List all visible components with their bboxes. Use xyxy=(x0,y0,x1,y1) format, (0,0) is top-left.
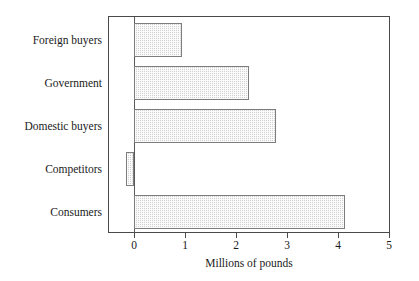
x-tick-mark xyxy=(134,233,135,238)
bar xyxy=(134,195,345,229)
x-tick-label: 0 xyxy=(119,239,149,251)
x-tick-mark xyxy=(185,233,186,238)
category-label: Competitors xyxy=(2,162,102,176)
x-tick-label: 5 xyxy=(374,239,404,251)
bars-layer xyxy=(109,17,389,232)
bar xyxy=(134,23,182,57)
x-tick-mark xyxy=(389,233,390,238)
category-label: Foreign buyers xyxy=(2,33,102,47)
x-tick-mark xyxy=(338,233,339,238)
category-label: Domestic buyers xyxy=(2,119,102,133)
x-axis-tick-labels: 012345 xyxy=(0,239,419,255)
bar xyxy=(126,152,134,186)
bar-row xyxy=(109,191,389,234)
bar-row xyxy=(109,105,389,148)
bar-row xyxy=(109,148,389,191)
bar xyxy=(134,109,276,143)
x-tick-mark xyxy=(236,233,237,238)
x-tick-mark xyxy=(287,233,288,238)
category-label: Consumers xyxy=(2,205,102,219)
bar-row xyxy=(109,19,389,62)
bar xyxy=(134,66,249,100)
category-label: Government xyxy=(2,76,102,90)
bar-row xyxy=(109,62,389,105)
x-tick-label: 3 xyxy=(272,239,302,251)
x-axis-title: Millions of pounds xyxy=(108,257,390,269)
x-tick-label: 4 xyxy=(323,239,353,251)
x-tick-label: 2 xyxy=(221,239,251,251)
x-tick-label: 1 xyxy=(170,239,200,251)
category-axis-labels: Foreign buyersGovernmentDomestic buyersC… xyxy=(0,17,102,232)
bar-chart: Foreign buyersGovernmentDomestic buyersC… xyxy=(0,0,419,281)
